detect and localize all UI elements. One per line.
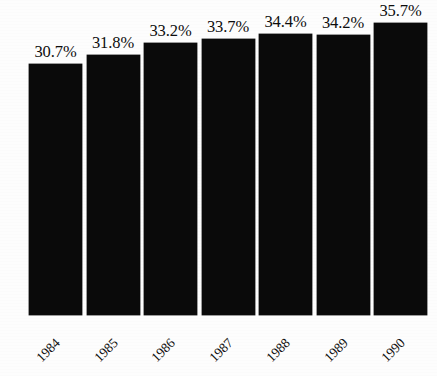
plot-area: 30.7%198431.8%198533.2%198633.7%198734.4… (0, 0, 437, 376)
x-axis-tick-label: 1984 (34, 336, 63, 365)
bar (144, 43, 197, 315)
x-axis-tick-label: 1985 (92, 336, 121, 365)
x-axis-tick-label: 1990 (379, 336, 408, 365)
bar (317, 35, 370, 315)
x-axis-tick-label: 1986 (149, 336, 178, 365)
bar (87, 55, 140, 315)
x-axis-tick-label: 1989 (322, 336, 351, 365)
bar-chart: 30.7%198431.8%198533.2%198633.7%198734.4… (0, 0, 437, 376)
bar (374, 23, 427, 315)
bar (29, 64, 82, 315)
x-axis-tick-label: 1988 (264, 336, 293, 365)
bar-value-label: 35.7% (365, 3, 436, 20)
bar (202, 39, 255, 315)
x-axis-tick-label: 1987 (207, 336, 236, 365)
bar (259, 34, 312, 315)
